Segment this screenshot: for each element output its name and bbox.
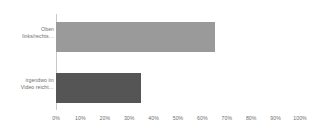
bar-series-0[interactable] xyxy=(56,22,215,52)
x-axis-tick-label: 70% xyxy=(222,114,233,122)
category-label: Oben links/rechts… xyxy=(0,26,54,40)
bar-series-1[interactable] xyxy=(56,73,141,103)
x-axis-tick-label: 10% xyxy=(75,114,86,122)
x-axis-tick-label: 100% xyxy=(293,114,306,122)
x-axis-tick-labels: 0%10%20%30%40%50%60%70%80%90%100% xyxy=(0,114,313,126)
x-axis-tick-label: 90% xyxy=(270,114,281,122)
plot-area xyxy=(56,14,300,110)
category-label: irgendwo im Video reicht… xyxy=(0,77,54,91)
x-axis-tick-label: 60% xyxy=(197,114,208,122)
x-axis-tick-label: 0% xyxy=(52,114,60,122)
x-axis-tick-label: 50% xyxy=(173,114,184,122)
x-axis-tick-label: 40% xyxy=(148,114,159,122)
bar-chart: Oben links/rechts… irgendwo im Video rei… xyxy=(0,0,313,138)
x-axis-tick-label: 20% xyxy=(100,114,111,122)
x-axis-tick-label: 30% xyxy=(124,114,135,122)
x-axis-tick-label: 80% xyxy=(246,114,257,122)
